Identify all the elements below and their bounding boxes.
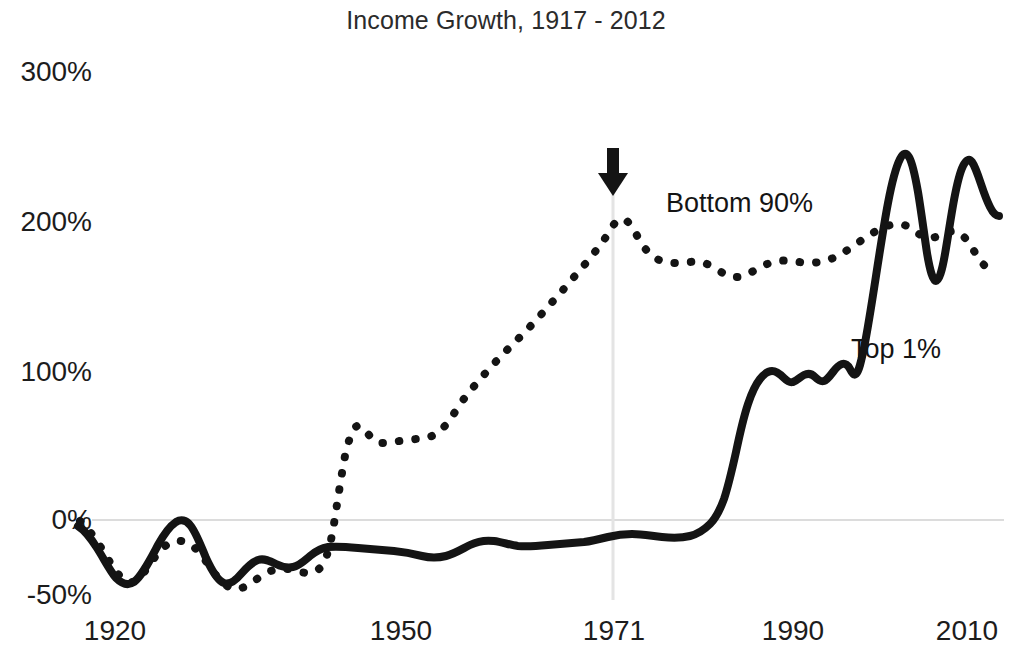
down-arrow-icon <box>598 148 628 196</box>
series-bottom-90-line <box>80 219 995 589</box>
plot-area <box>0 0 1012 655</box>
income-growth-chart: Income Growth, 1917 - 2012 300% 200% 100… <box>0 0 1012 655</box>
